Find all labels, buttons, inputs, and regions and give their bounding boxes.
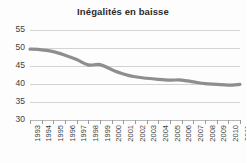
plot-area	[30, 30, 240, 120]
x-tick-1993	[30, 120, 31, 124]
x-axis-labels: 1993199419951996199719981999200020012002…	[30, 125, 240, 161]
x-tick-label-1998: 1998	[92, 125, 100, 142]
x-tick-label-2003: 2003	[150, 125, 158, 142]
x-tick-1998	[88, 120, 89, 124]
x-tick-2006	[182, 120, 183, 124]
x-tick-label-2000: 2000	[115, 125, 123, 142]
y-tick-label-50: 50	[4, 43, 25, 52]
x-tick-2001	[123, 120, 124, 124]
x-tick-1995	[53, 120, 54, 124]
x-tick-label-2011: 2011	[244, 125, 247, 141]
x-tick-label-2005: 2005	[174, 125, 182, 142]
x-tick-label-2006: 2006	[185, 125, 193, 142]
x-tick-label-1993: 1993	[34, 125, 42, 142]
y-tick-label-40: 40	[4, 79, 25, 88]
x-tick-label-2010: 2010	[232, 125, 240, 142]
x-tick-2007	[193, 120, 194, 124]
y-tick-label-35: 35	[4, 97, 25, 106]
x-tick-label-2009: 2009	[220, 125, 228, 142]
x-tick-label-1999: 1999	[104, 125, 112, 142]
x-tick-label-2008: 2008	[209, 125, 217, 142]
x-tick-label-1997: 1997	[80, 125, 88, 142]
x-tick-2010	[228, 120, 229, 124]
x-tick-label-1994: 1994	[45, 125, 53, 142]
x-tick-label-2004: 2004	[162, 125, 170, 142]
y-tick-label-45: 45	[4, 61, 25, 70]
x-tick-1997	[77, 120, 78, 124]
x-tick-1994	[42, 120, 43, 124]
x-tick-2011	[240, 120, 241, 124]
x-tick-label-2007: 2007	[197, 125, 205, 142]
x-tick-1996	[65, 120, 66, 124]
chart-container: Inégalités en baisse 303540455055 199319…	[0, 0, 246, 163]
x-tick-2009	[217, 120, 218, 124]
x-tick-label-2002: 2002	[139, 125, 147, 142]
x-tick-label-1996: 1996	[69, 125, 77, 142]
series-line	[30, 30, 240, 120]
x-tick-label-2001: 2001	[127, 125, 135, 142]
y-tick-label-30: 30	[4, 115, 25, 124]
x-tick-label-1995: 1995	[57, 125, 65, 142]
y-tick-label-55: 55	[4, 25, 25, 34]
x-tick-2004	[158, 120, 159, 124]
chart-title: Inégalités en baisse	[0, 6, 246, 17]
x-tick-1999	[100, 120, 101, 124]
x-tick-2003	[147, 120, 148, 124]
x-tick-2000	[112, 120, 113, 124]
x-tick-2008	[205, 120, 206, 124]
x-tick-2005	[170, 120, 171, 124]
x-tick-2002	[135, 120, 136, 124]
series-path	[30, 49, 240, 85]
